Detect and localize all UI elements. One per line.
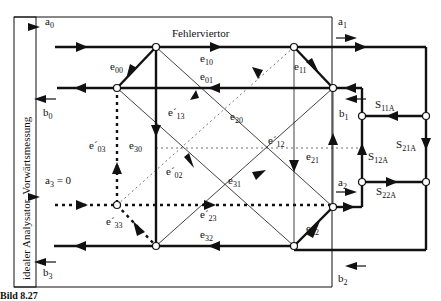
side-label: idealer Analysator, Vorwärtsmessung [20,116,32,280]
node [330,204,337,211]
label-e02p: e´02 [166,165,183,180]
label-b2: b2 [338,272,348,287]
label-b0: b0 [43,106,53,121]
label-S22A: S22A [376,185,396,200]
label-e13p: e´13 [168,106,185,121]
node [114,202,121,209]
label-S12A: S12A [368,150,388,165]
node [291,44,298,51]
node [114,85,121,92]
title: Fehlerviertor [172,27,230,39]
label-b3: b3 [43,266,53,281]
label-e32: e32 [200,228,213,243]
node [153,44,160,51]
dotted-paths [55,95,333,246]
nodes [114,44,430,250]
node [359,179,366,186]
label-e00: e00 [110,60,123,75]
label-e23p: e´23 [200,208,217,223]
node [153,243,160,250]
label-e30: e30 [129,139,142,154]
label-a1: a1 [338,15,347,30]
label-S21A: S21A [396,138,416,153]
label-e01: e01 [200,70,213,85]
label-b1: b1 [339,107,349,122]
signal-flow-diagram: Fehlerviertor idealer Analysator, Vorwär… [0,0,441,301]
node [423,113,430,120]
label-a2: a2 [338,176,347,191]
label-e12p: e´12 [268,134,285,149]
label-e33p: e´33 [106,215,123,230]
caption: Bild 8.27 [0,290,38,301]
label-a3: a3 = 0 [45,174,72,189]
label-e10: e10 [200,52,213,67]
label-e03p: e´03 [89,139,106,154]
label-e21: e21 [306,150,319,165]
label-S11A: S11A [375,98,395,113]
thin-paths [117,47,333,246]
node [330,85,337,92]
node [291,243,298,250]
label-e20: e20 [230,110,243,125]
label-e11: e11 [294,60,307,75]
node [423,179,430,186]
node [359,113,366,120]
